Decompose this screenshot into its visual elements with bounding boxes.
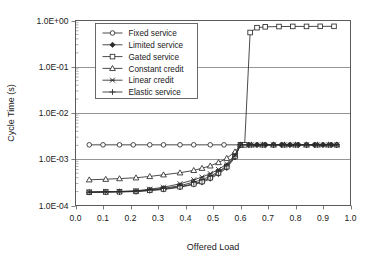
y-tick-label: 1.0E+00 xyxy=(37,16,69,26)
y-axis-title: Cycle Time (s) xyxy=(6,84,16,142)
x-tick-label: 0.4 xyxy=(180,213,192,223)
x-tick-label: 0.2 xyxy=(125,213,137,223)
x-tick-label: 1.0 xyxy=(345,213,357,223)
cycle-time-vs-offered-load-chart: 1.0E+001.0E-011.0E-021.0E-031.0E-04 0.00… xyxy=(0,0,367,260)
legend-label: Linear credit xyxy=(129,76,175,85)
x-tick-label: 0.5 xyxy=(207,213,219,223)
x-tick-label: 0.0 xyxy=(70,213,82,223)
x-tick-label: 0.3 xyxy=(152,213,164,223)
y-tick-label: 1.0E-03 xyxy=(39,154,69,164)
legend-label: Limited service xyxy=(129,41,184,50)
y-tick-label: 1.0E-02 xyxy=(39,108,69,118)
chart-legend: Fixed serviceLimited serviceGated servic… xyxy=(96,24,198,99)
x-axis-title: Offered Load xyxy=(187,242,239,252)
x-tick-label: 0.9 xyxy=(317,213,329,223)
legend-label: Fixed service xyxy=(129,29,178,38)
legend-label: Elastic service xyxy=(129,88,182,97)
x-tick-label: 0.7 xyxy=(262,213,274,223)
legend-marker-circle-open-icon xyxy=(110,31,115,36)
chart-figure: 1.0E+001.0E-011.0E-021.0E-031.0E-04 0.00… xyxy=(0,0,367,260)
x-tick-label: 0.1 xyxy=(97,213,109,223)
legend-label: Gated service xyxy=(129,53,180,62)
x-tick-label: 0.8 xyxy=(290,213,302,223)
legend-marker-square-open-icon xyxy=(110,54,115,59)
y-tick-label: 1.0E-04 xyxy=(39,201,69,211)
legend-label: Constant credit xyxy=(129,65,185,74)
y-tick-label: 1.0E-01 xyxy=(39,62,69,72)
x-tick-label: 0.6 xyxy=(235,213,247,223)
